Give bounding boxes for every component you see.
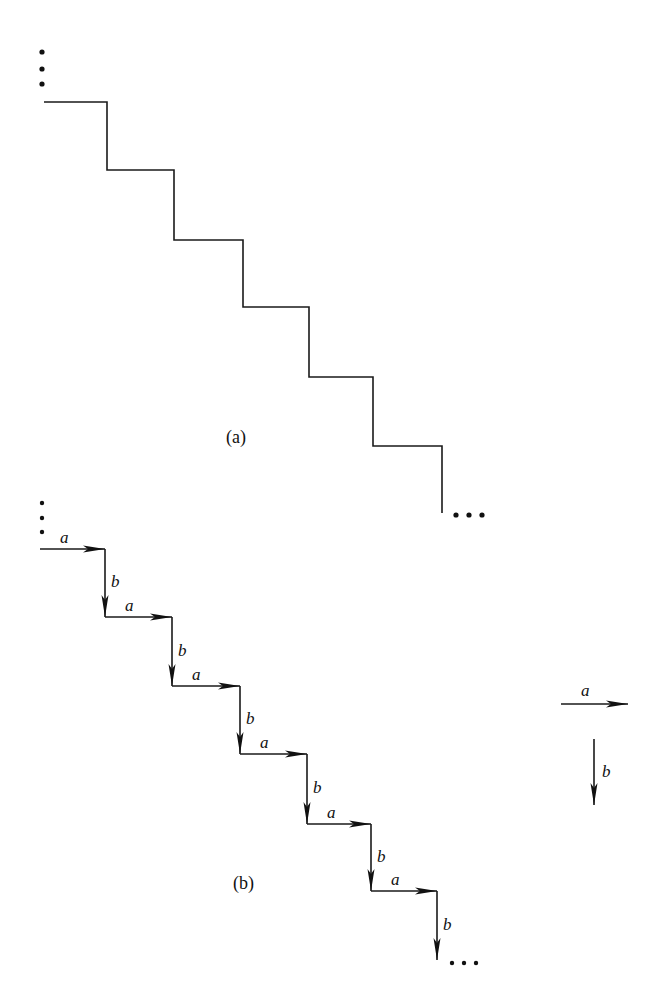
arrow-label-a: a: [60, 528, 69, 547]
ellipsis-dot: [466, 512, 471, 517]
arrow-legend: ab: [561, 681, 628, 805]
ellipsis-dot: [479, 512, 484, 517]
ellipsis-dot: [462, 961, 466, 965]
ellipsis-dot: [450, 961, 454, 965]
ellipsis-dot: [40, 516, 44, 520]
arrow-label-b: b: [313, 778, 322, 797]
ellipsis-dot: [39, 81, 44, 86]
arrow-label-a: a: [192, 665, 201, 684]
arrow-label-a: a: [260, 733, 269, 752]
arrow-label-b: b: [178, 641, 187, 660]
arrow-label-b: b: [377, 847, 386, 866]
panel-b-arrow-staircase: abababababab: [40, 501, 478, 965]
panel-b-caption: (b): [233, 873, 254, 894]
arrow-label-b: b: [111, 572, 120, 591]
arrow-label-b: b: [246, 709, 255, 728]
legend-label-b: b: [602, 762, 611, 781]
ellipsis-dot: [39, 66, 44, 71]
staircase-line: [44, 102, 442, 513]
staircase-diagram: (a) abababababab (b) ab: [0, 0, 663, 1000]
panel-a-staircase: [39, 49, 484, 517]
arrow-label-a: a: [327, 803, 336, 822]
panel-a-caption: (a): [226, 427, 246, 448]
ellipsis-dot: [39, 49, 44, 54]
ellipsis-dot: [453, 512, 458, 517]
arrow-label-a: a: [125, 596, 134, 615]
legend-label-a: a: [581, 681, 590, 700]
ellipsis-dot: [40, 501, 44, 505]
arrow-label-b: b: [443, 915, 452, 934]
arrow-label-a: a: [391, 870, 400, 889]
ellipsis-dot: [474, 961, 478, 965]
ellipsis-dot: [40, 530, 44, 534]
